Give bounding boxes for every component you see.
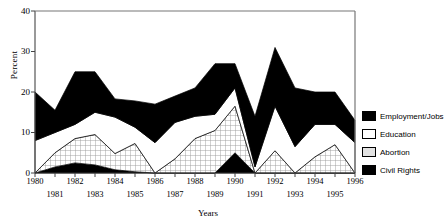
x-tick-1991: 1991 (238, 190, 272, 199)
legend-label-education: Education (380, 130, 416, 139)
area-bands (35, 47, 355, 173)
x-tick-1983: 1983 (78, 190, 112, 199)
x-axis-label: Years (160, 208, 256, 218)
x-tick-1981: 1981 (38, 190, 72, 199)
legend-swatch-abortion (362, 147, 376, 157)
legend-label-abortion: Abortion (380, 148, 410, 157)
x-tick-1986: 1986 (138, 177, 172, 186)
x-tick-1989: 1989 (198, 190, 232, 199)
x-tick-1995: 1995 (318, 190, 352, 199)
x-tick-1990: 1990 (218, 177, 252, 186)
legend-label-employment: Employment/Jobs (380, 112, 444, 121)
x-tick-1992: 1992 (258, 177, 292, 186)
legend-item-employment[interactable]: Employment/Jobs (362, 108, 444, 124)
x-tick-1980: 1980 (18, 177, 52, 186)
x-tick-1987: 1987 (158, 190, 192, 199)
x-tick-1993: 1993 (278, 190, 312, 199)
legend-item-education[interactable]: Education (362, 126, 444, 142)
legend-swatch-civil-rights (362, 165, 376, 175)
legend-item-civil-rights[interactable]: Civil Rights (362, 162, 444, 178)
legend-swatch-employment (362, 111, 376, 121)
chart-legend: Employment/Jobs Education Abortion Civil… (362, 108, 444, 180)
legend-item-abortion[interactable]: Abortion (362, 144, 444, 160)
legend-label-civil-rights: Civil Rights (380, 166, 420, 175)
x-tick-1994: 1994 (298, 177, 332, 186)
x-tick-1985: 1985 (118, 190, 152, 199)
legend-swatch-education (362, 129, 376, 139)
x-tick-1988: 1988 (178, 177, 212, 186)
x-tick-1982: 1982 (58, 177, 92, 186)
x-tick-1984: 1984 (98, 177, 132, 186)
